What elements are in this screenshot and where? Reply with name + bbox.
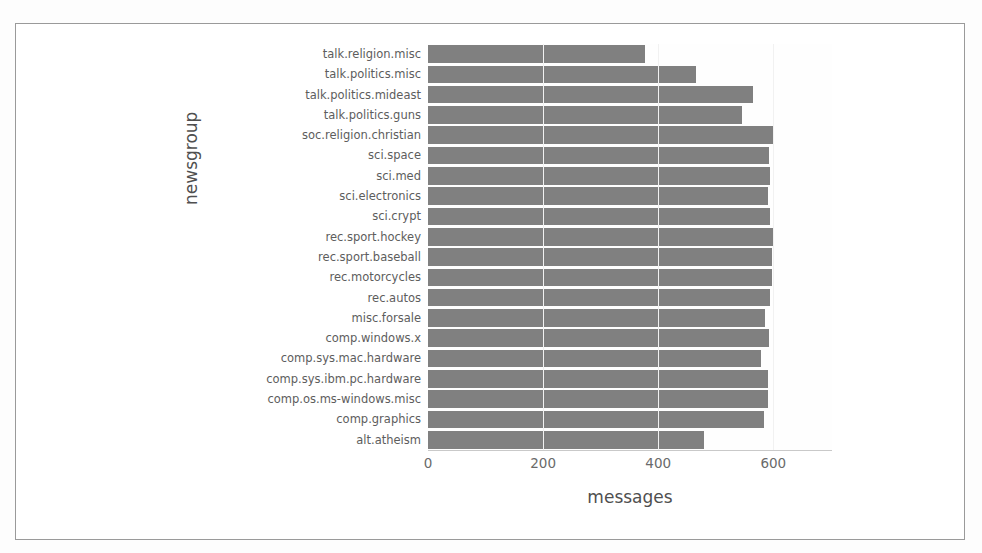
bar-row bbox=[428, 125, 832, 145]
bar bbox=[428, 411, 764, 429]
bar bbox=[428, 350, 761, 368]
y-tick-row: comp.sys.ibm.pc.hardware bbox=[0, 369, 428, 389]
y-tick-row: talk.politics.guns bbox=[0, 105, 428, 125]
bar bbox=[428, 289, 770, 307]
x-axis-tick-labels: 0200400600 bbox=[428, 455, 832, 477]
bar bbox=[428, 309, 765, 327]
y-tick-label: talk.religion.misc bbox=[323, 44, 428, 64]
y-tick-label: rec.motorcycles bbox=[329, 267, 428, 287]
bar bbox=[428, 66, 696, 84]
bar-row bbox=[428, 206, 832, 226]
x-axis-line bbox=[428, 450, 832, 451]
bar-row bbox=[428, 85, 832, 105]
y-tick-row: rec.autos bbox=[0, 288, 428, 308]
bar-row bbox=[428, 430, 832, 450]
bar bbox=[428, 228, 773, 246]
x-tick-label: 200 bbox=[530, 455, 556, 471]
bar bbox=[428, 126, 773, 144]
y-tick-row: comp.os.ms-windows.misc bbox=[0, 389, 428, 409]
y-tick-row: comp.windows.x bbox=[0, 328, 428, 348]
bar bbox=[428, 431, 704, 449]
x-axis-title: messages bbox=[428, 487, 832, 507]
y-tick-row: talk.politics.mideast bbox=[0, 85, 428, 105]
bar-row bbox=[428, 409, 832, 429]
bar bbox=[428, 167, 770, 185]
y-tick-label: comp.sys.mac.hardware bbox=[281, 348, 428, 368]
y-tick-label: rec.autos bbox=[368, 288, 428, 308]
bar bbox=[428, 106, 742, 124]
bar-series bbox=[428, 44, 832, 450]
y-tick-row: sci.crypt bbox=[0, 206, 428, 226]
bar bbox=[428, 390, 768, 408]
y-tick-row: rec.motorcycles bbox=[0, 267, 428, 287]
y-tick-row: comp.graphics bbox=[0, 409, 428, 429]
bar-row bbox=[428, 227, 832, 247]
y-tick-label: sci.electronics bbox=[339, 186, 428, 206]
bar-row bbox=[428, 166, 832, 186]
y-tick-label: soc.religion.christian bbox=[302, 125, 428, 145]
y-tick-label: misc.forsale bbox=[352, 308, 429, 328]
y-axis-tick-labels: talk.religion.misctalk.politics.misctalk… bbox=[0, 44, 428, 450]
bar bbox=[428, 187, 768, 205]
plot-area bbox=[428, 44, 832, 450]
x-tick-label: 600 bbox=[760, 455, 786, 471]
bar-row bbox=[428, 389, 832, 409]
bar bbox=[428, 45, 645, 63]
y-tick-label: talk.politics.misc bbox=[325, 64, 428, 84]
bar bbox=[428, 208, 770, 226]
bar-row bbox=[428, 267, 832, 287]
y-tick-label: sci.crypt bbox=[372, 206, 428, 226]
y-tick-row: talk.religion.misc bbox=[0, 44, 428, 64]
y-tick-label: comp.windows.x bbox=[325, 328, 428, 348]
y-tick-row: rec.sport.baseball bbox=[0, 247, 428, 267]
y-tick-row: misc.forsale bbox=[0, 308, 428, 328]
x-tick-label: 400 bbox=[645, 455, 671, 471]
bar-row bbox=[428, 369, 832, 389]
y-tick-label: rec.sport.baseball bbox=[318, 247, 428, 267]
y-tick-row: alt.atheism bbox=[0, 430, 428, 450]
y-tick-row: sci.med bbox=[0, 166, 428, 186]
y-tick-label: sci.space bbox=[368, 145, 428, 165]
figure-canvas: talk.religion.misctalk.politics.misctalk… bbox=[0, 0, 982, 553]
bar bbox=[428, 147, 769, 165]
bar-row bbox=[428, 145, 832, 165]
y-tick-row: soc.religion.christian bbox=[0, 125, 428, 145]
x-gridline bbox=[773, 44, 774, 450]
bar bbox=[428, 248, 772, 266]
y-tick-label: comp.os.ms-windows.misc bbox=[267, 389, 428, 409]
y-tick-row: sci.space bbox=[0, 145, 428, 165]
bar bbox=[428, 329, 769, 347]
bar-row bbox=[428, 247, 832, 267]
y-tick-row: comp.sys.mac.hardware bbox=[0, 348, 428, 368]
bar bbox=[428, 86, 753, 104]
bar-row bbox=[428, 308, 832, 328]
y-tick-label: comp.graphics bbox=[336, 409, 428, 429]
y-tick-label: talk.politics.guns bbox=[324, 105, 428, 125]
x-gridline bbox=[658, 44, 659, 450]
bar-row bbox=[428, 64, 832, 84]
bar-row bbox=[428, 186, 832, 206]
y-axis-title: newsgroup bbox=[181, 112, 201, 205]
y-tick-row: sci.electronics bbox=[0, 186, 428, 206]
x-gridline bbox=[543, 44, 544, 450]
bar-row bbox=[428, 288, 832, 308]
y-tick-label: talk.politics.mideast bbox=[305, 85, 428, 105]
bar bbox=[428, 269, 772, 287]
bar-row bbox=[428, 105, 832, 125]
y-tick-row: talk.politics.misc bbox=[0, 64, 428, 84]
bar-row bbox=[428, 44, 832, 64]
y-tick-row: rec.sport.hockey bbox=[0, 227, 428, 247]
y-tick-label: comp.sys.ibm.pc.hardware bbox=[266, 369, 428, 389]
y-tick-label: sci.med bbox=[376, 166, 428, 186]
y-tick-label: alt.atheism bbox=[356, 430, 428, 450]
bar bbox=[428, 370, 768, 388]
bar-row bbox=[428, 328, 832, 348]
x-tick-label: 0 bbox=[424, 455, 433, 471]
bar-row bbox=[428, 348, 832, 368]
y-tick-label: rec.sport.hockey bbox=[325, 227, 428, 247]
